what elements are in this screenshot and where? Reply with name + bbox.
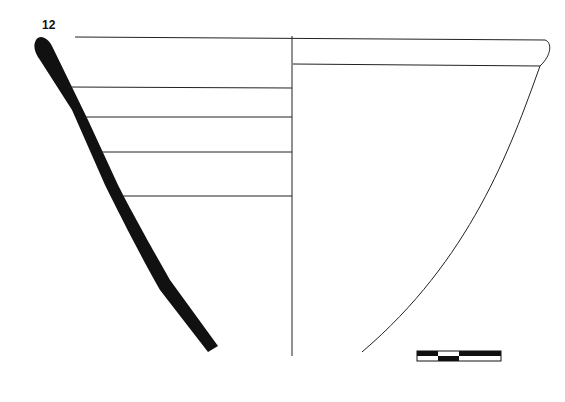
wall-section — [34, 37, 218, 352]
pottery-profile-drawing — [0, 0, 565, 402]
rim-line — [75, 37, 545, 40]
ledger-line — [68, 87, 292, 88]
scale-bar — [417, 351, 501, 361]
outer-profile — [362, 66, 540, 352]
rim-curve — [540, 40, 550, 66]
inner-rim-line — [293, 64, 540, 66]
